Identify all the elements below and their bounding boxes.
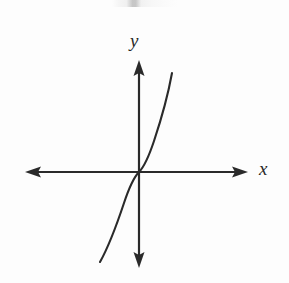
x-axis-label: x: [259, 159, 267, 178]
cubic-curve: [100, 73, 172, 262]
y-axis-label: y: [130, 31, 138, 50]
graph-canvas: [0, 0, 289, 283]
cubic-function-graph: y x: [0, 0, 289, 283]
